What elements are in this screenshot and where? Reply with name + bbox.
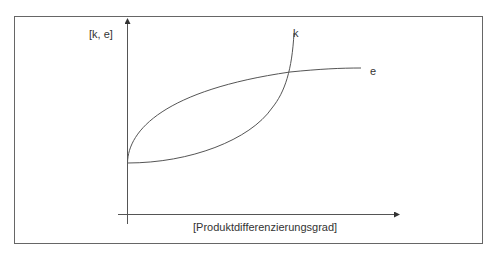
curve-e [128,68,362,163]
x-axis-label: [Produktdifferenzierungsgrad] [193,221,337,233]
diagram-canvas: [k, e] k e [Produktdifferenzierungsgrad] [0,0,496,256]
curve-e-label: e [370,65,376,77]
curve-k-label: k [293,27,299,39]
curve-k [128,33,295,163]
y-axis-label: [k, e] [89,28,113,40]
